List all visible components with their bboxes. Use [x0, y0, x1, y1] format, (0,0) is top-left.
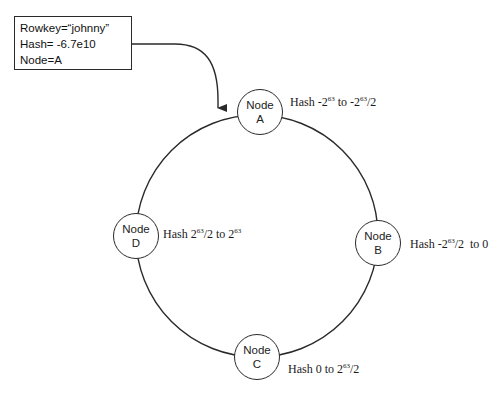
- hash-text: Hash -2: [290, 95, 328, 109]
- node-c-hash-range: Hash 0 to 263/2: [288, 362, 359, 377]
- hash-exponent: 63: [343, 362, 350, 370]
- node-b: Node B: [355, 220, 401, 266]
- hash-exponent: 63: [197, 227, 204, 235]
- node-a-label: Node: [246, 98, 274, 112]
- node-d-hash-range: Hash 263/2 to 263: [163, 227, 241, 242]
- hash-text: /2 to 0: [455, 237, 489, 251]
- node-b-label: Node: [364, 229, 392, 243]
- hash-text: /2 to 2: [204, 227, 235, 241]
- node-d-label: Node: [122, 222, 150, 236]
- node-b-id: B: [374, 243, 382, 257]
- consistent-hashing-diagram: Rowkey=“johnny” Hash= -6.7e10 Node=A Nod…: [0, 0, 504, 399]
- node-line: Node=A: [20, 52, 131, 68]
- hash-text: /2: [350, 362, 359, 376]
- node-a-hash-range: Hash -263 to -263/2: [290, 95, 376, 110]
- hash-text: Hash 2: [163, 227, 197, 241]
- hash-text: Hash -2: [410, 237, 448, 251]
- hash-exponent: 63: [234, 227, 241, 235]
- node-c-label: Node: [243, 343, 271, 357]
- hash-text: to -2: [335, 95, 360, 109]
- rowkey-line: Rowkey=“johnny”: [20, 20, 131, 36]
- hash-line: Hash= -6.7e10: [20, 36, 131, 52]
- node-d: Node D: [113, 213, 159, 259]
- node-c-id: C: [253, 357, 261, 371]
- hash-exponent: 63: [328, 95, 335, 103]
- node-b-hash-range: Hash -263/2 to 0: [410, 237, 488, 252]
- node-a: Node A: [237, 89, 283, 135]
- hash-text: Hash 0 to 2: [288, 362, 343, 376]
- hash-text: /2: [367, 95, 376, 109]
- node-c: Node C: [234, 334, 280, 380]
- lookup-arrow: [132, 44, 218, 108]
- node-d-id: D: [132, 236, 140, 250]
- node-a-id: A: [256, 112, 264, 126]
- hash-exponent: 63: [448, 237, 455, 245]
- hash-exponent: 63: [360, 95, 367, 103]
- rowkey-info-box: Rowkey=“johnny” Hash= -6.7e10 Node=A: [14, 16, 132, 70]
